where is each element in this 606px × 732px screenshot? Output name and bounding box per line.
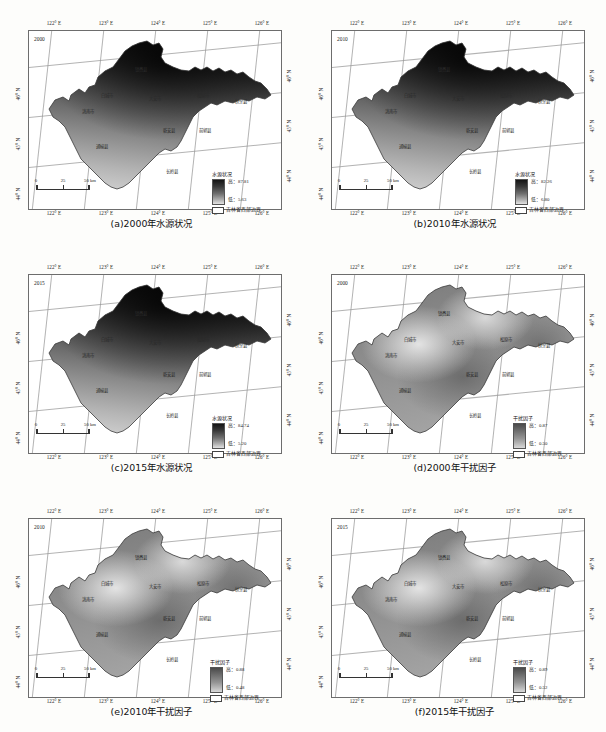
scale-bar: 0 25 50 km: [36, 178, 90, 190]
lon-tick-top: 126° E: [255, 20, 270, 26]
city-label: 镇赉县: [438, 310, 450, 316]
city-label: 镇赉县: [135, 310, 147, 316]
color-ramp: [212, 423, 225, 449]
lat-tick-right: 46° N: [589, 314, 595, 327]
lat-tick-left: 46° N: [318, 332, 324, 345]
lon-tick-top: 125° E: [203, 508, 218, 514]
lon-tick-top: 125° E: [203, 20, 218, 26]
panel-caption: (d)2000年干扰因子: [303, 460, 606, 474]
lon-tick-top: 122° E: [350, 264, 365, 270]
lat-tick-right: 46° N: [589, 558, 595, 571]
lon-tick-top: 123° E: [99, 20, 114, 26]
legend-title: 水源状况: [515, 172, 587, 178]
legend-title: 水源状况: [212, 172, 284, 178]
legend-low-value: 低：5.20: [228, 441, 249, 447]
panel-caption: (f)2015年干扰因子: [303, 704, 606, 718]
lat-tick-right: 44° N: [286, 658, 292, 671]
lon-tick-top: 123° E: [99, 264, 114, 270]
legend-boundary-label: 吉林省西部边界: [527, 451, 562, 457]
legend-title: 干扰因子: [513, 416, 585, 422]
lat-tick-left: 44° N: [15, 432, 21, 445]
lat-tick-right: 44° N: [589, 170, 595, 183]
lat-tick-right: 46° N: [286, 70, 292, 83]
city-label: 白城市: [101, 336, 113, 342]
lat-tick-right: 45° N: [286, 364, 292, 377]
legend-title: 水源状况: [212, 416, 284, 422]
city-label: 镇赉县: [135, 554, 147, 560]
city-label: 长岭县: [469, 412, 481, 418]
legend-low-value: 低：5.63: [228, 197, 249, 203]
city-label: 洮南市: [385, 352, 397, 358]
legend-high-value: 高：84.74: [228, 423, 249, 429]
lon-tick-top: 123° E: [402, 20, 417, 26]
legend-boundary-row: 吉林省西部边界: [212, 451, 284, 458]
lat-tick-left: 45° N: [15, 626, 21, 639]
city-label: 前郭县: [502, 615, 514, 621]
lon-tick-top: 125° E: [506, 264, 521, 270]
legend-boundary-row: 吉林省西部边界: [513, 695, 585, 702]
city-label: 前郭县: [502, 127, 514, 133]
map-legend: 水源状况 高：84.74 低：5.20 吉林省西部边界: [212, 416, 284, 458]
map-legend: 水源状况 高：82.26 低：6.80 吉林省西部边界: [515, 172, 587, 214]
city-label: 大安市: [149, 583, 161, 589]
city-label: 前郭县: [502, 371, 514, 377]
boundary-swatch: [212, 451, 224, 458]
city-label: 乾安县: [163, 371, 175, 377]
lon-tick-top: 126° E: [255, 264, 270, 270]
lon-tick-top: 122° E: [47, 20, 62, 26]
city-label: 长岭县: [469, 656, 481, 662]
lat-tick-right: 46° N: [286, 558, 292, 571]
city-label: 镇赉县: [438, 554, 450, 560]
city-label: 通榆县: [399, 387, 411, 393]
legend-high-value: 高：0.87: [529, 423, 547, 429]
city-label: 洮南市: [385, 108, 397, 114]
legend-boundary-row: 吉林省西部边界: [513, 451, 585, 458]
lon-tick-top: 124° E: [454, 264, 469, 270]
city-label: 通榆县: [96, 387, 108, 393]
panel-caption: (a)2000年水源状况: [0, 216, 303, 230]
map-legend: 干扰因子 高：0.87 低：0.50 吉林省西部边界: [513, 416, 585, 458]
lat-tick-left: 44° N: [318, 676, 324, 689]
lon-tick-top: 126° E: [255, 508, 270, 514]
lat-tick-left: 45° N: [15, 382, 21, 395]
scale-bar: 0 25 50 km: [339, 178, 393, 190]
panel-year-label: 2010: [34, 524, 45, 530]
panel-caption: (e)2010年干扰因子: [0, 704, 303, 718]
panel-year-label: 2015: [337, 524, 348, 530]
lon-tick-top: 122° E: [47, 508, 62, 514]
map-panel-f: 镇赉县白城市洮南市大安市松原市扶余县乾安县前郭县通榆县长岭县 2015 122°…: [303, 488, 606, 732]
city-label: 洮南市: [82, 596, 94, 602]
lat-tick-left: 45° N: [318, 382, 324, 395]
legend-high-value: 高：87.81: [228, 179, 249, 185]
city-label: 洮南市: [82, 352, 94, 358]
lon-tick-top: 125° E: [203, 264, 218, 270]
lon-tick-top: 126° E: [558, 20, 573, 26]
boundary-swatch: [513, 695, 525, 702]
lon-tick-top: 125° E: [506, 20, 521, 26]
city-label: 镇赉县: [135, 66, 147, 72]
map-legend: 干扰因子 高：0.88 低：0.48 吉林省西部边界: [210, 660, 282, 702]
city-label: 洮南市: [82, 108, 94, 114]
color-ramp: [212, 179, 225, 205]
lat-tick-right: 45° N: [589, 364, 595, 377]
boundary-swatch: [212, 207, 224, 214]
lat-tick-left: 45° N: [15, 138, 21, 151]
lat-tick-left: 46° N: [15, 332, 21, 345]
legend-boundary-row: 吉林省西部边界: [210, 695, 282, 702]
city-label: 扶余县: [235, 342, 247, 348]
map-panel-e: 镇赉县白城市洮南市大安市松原市扶余县乾安县前郭县通榆县长岭县 2010 122°…: [0, 488, 303, 732]
lon-tick-top: 124° E: [151, 20, 166, 26]
city-label: 白城市: [404, 336, 416, 342]
legend-high-value: 高：0.89: [529, 667, 547, 673]
panel-year-label: 2015: [34, 280, 45, 286]
city-label: 大安市: [452, 339, 464, 345]
color-ramp: [515, 179, 528, 205]
city-label: 乾安县: [163, 615, 175, 621]
lon-tick-top: 122° E: [47, 264, 62, 270]
city-label: 通榆县: [96, 143, 108, 149]
city-label: 长岭县: [166, 168, 178, 174]
panel-year-label: 2000: [34, 36, 45, 42]
scale-bar: 0 25 50 km: [339, 422, 393, 434]
city-label: 松原市: [500, 336, 512, 342]
lat-tick-right: 45° N: [286, 608, 292, 621]
